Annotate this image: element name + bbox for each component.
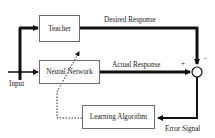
teacher-label: Teacher: [48, 25, 71, 33]
input-label: Input: [9, 81, 24, 88]
summing-junction: [192, 67, 202, 77]
desired-response-label: Desired Response: [104, 17, 156, 24]
plus-sign: +: [181, 61, 185, 68]
error-signal-path: [158, 77, 198, 119]
input-path: [8, 28, 38, 80]
actual-response-label: Actual Response: [112, 62, 161, 69]
neural-network-label: Neural Network: [46, 68, 93, 76]
neural-network-block: Neural Network: [39, 60, 100, 84]
supervised-learning-diagram: Teacher Neural Network Learning Algorith…: [0, 0, 215, 138]
learning-algorithm-block: Learning Algorithm: [82, 105, 155, 129]
desired-response-path: [80, 27, 198, 64]
teacher-block: Teacher: [39, 15, 80, 42]
error-signal-label: Error Signal: [165, 126, 200, 133]
learning-algorithm-label: Learning Algorithm: [90, 113, 147, 121]
minus-sign: −: [203, 56, 207, 63]
